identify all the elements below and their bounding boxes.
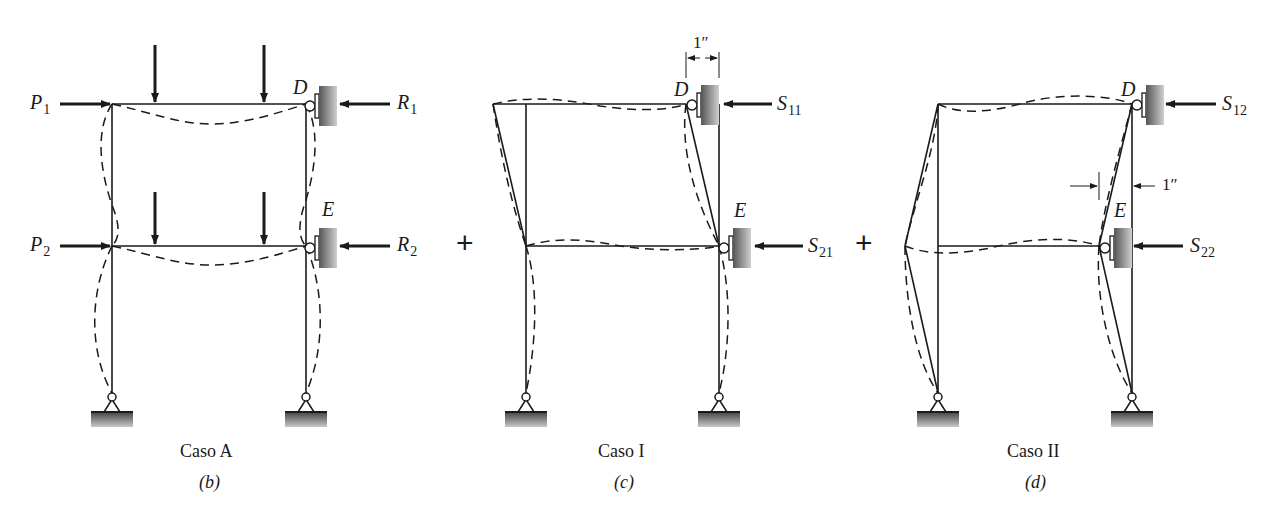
dimension-label-d: 1″ bbox=[1162, 175, 1178, 195]
reaction-r2-label: R2 bbox=[397, 233, 417, 260]
joint-d-label-d: D bbox=[1121, 78, 1135, 101]
caption-caso-i: Caso I bbox=[598, 441, 645, 462]
joint-d-label-c: D bbox=[674, 78, 688, 101]
panel-d-displaced-frame bbox=[905, 104, 1132, 393]
joint-e-label-d: E bbox=[1114, 199, 1126, 222]
reaction-s22-label: S22 bbox=[1190, 234, 1215, 261]
sublabel-b: (b) bbox=[199, 472, 220, 493]
joint-d-label: D bbox=[293, 76, 307, 99]
reaction-s21-label: S21 bbox=[808, 234, 833, 261]
caption-caso-ii: Caso II bbox=[1007, 441, 1060, 462]
joint-e-label-c: E bbox=[734, 199, 746, 222]
panel-d-deflected-shape bbox=[905, 96, 1132, 393]
panel-b-deflected-shape bbox=[95, 104, 321, 393]
panel-c-dimension bbox=[686, 52, 719, 78]
reaction-s12-label: S12 bbox=[1222, 92, 1247, 119]
caption-caso-a: Caso A bbox=[180, 441, 233, 462]
panel-c-original-frame bbox=[526, 104, 719, 393]
joint-e-label: E bbox=[322, 198, 334, 221]
pin-supports bbox=[91, 393, 1153, 427]
sublabel-c: (c) bbox=[614, 472, 634, 493]
sublabel-d: (d) bbox=[1025, 472, 1046, 493]
panel-b-frame bbox=[112, 104, 306, 393]
plus-operator-2: + bbox=[855, 226, 873, 260]
reaction-r1-label: R1 bbox=[397, 91, 417, 118]
load-p2-label: P2 bbox=[30, 233, 50, 260]
superposition-frame-figure: P1 P2 D E R1 R2 Caso A (b) + D E 1″ S11 … bbox=[0, 0, 1278, 527]
load-p1-label: P1 bbox=[30, 91, 50, 118]
reaction-s11-label: S11 bbox=[777, 92, 801, 119]
roller-supports bbox=[305, 85, 1164, 268]
plus-operator-1: + bbox=[456, 226, 474, 260]
dimension-label-c: 1″ bbox=[693, 33, 709, 53]
